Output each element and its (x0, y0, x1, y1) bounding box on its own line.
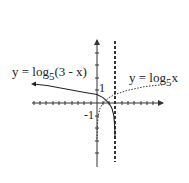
label-log5-x: y = log5x (129, 70, 178, 88)
tick-label-1: 1 (99, 81, 105, 95)
tick-label-neg1: -1 (84, 108, 94, 122)
label-log5-3-minus-x: y = log5(3 - x) (12, 64, 87, 82)
log-graph: 1 -1 y = log5(3 - x) y = log5x (0, 0, 189, 183)
curve-log5-x (97, 85, 163, 139)
arrowhead-left-icon (31, 82, 36, 87)
